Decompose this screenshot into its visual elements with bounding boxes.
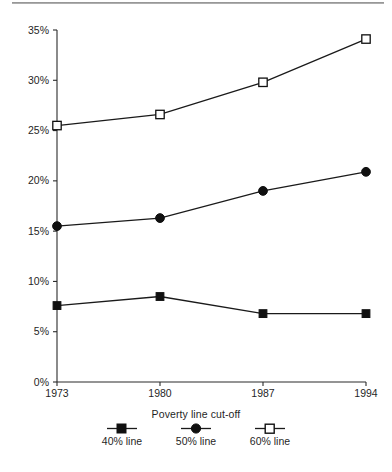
chart-plot-area: 0%5%10%15%20%25%30%35% 1973198019871994 — [0, 0, 392, 472]
y-tick-label: 35% — [28, 24, 49, 36]
data-point-marker — [53, 121, 61, 129]
legend-item-50-line[interactable]: 50% line — [167, 423, 225, 447]
y-tick-label: 20% — [28, 174, 49, 186]
data-point-marker — [259, 187, 268, 196]
data-point-marker — [156, 293, 164, 301]
legend-title: Poverty line cut-off — [0, 408, 392, 420]
legend-swatch-open-square — [253, 423, 287, 434]
y-tick-label: 0% — [34, 376, 49, 388]
legend-label-40-line: 40% line — [102, 435, 142, 447]
legend-label-50-line: 50% line — [176, 435, 216, 447]
legend-item-60-line[interactable]: 60% line — [241, 423, 299, 447]
chart-legend: Poverty line cut-off 40% line — [0, 408, 392, 447]
data-point-marker — [362, 167, 371, 176]
y-tick-label: 5% — [34, 325, 49, 337]
series-line-50-line — [57, 172, 366, 226]
y-tick-label: 10% — [28, 275, 49, 287]
x-axis-tick-labels: 1973198019871994 — [45, 387, 378, 399]
data-point-marker — [259, 310, 267, 318]
data-point-marker — [259, 78, 267, 86]
series-line-60-line — [57, 39, 366, 125]
data-point-marker — [362, 310, 370, 318]
data-point-marker — [53, 222, 62, 231]
y-tick-label: 25% — [28, 124, 49, 136]
x-tick-label: 1973 — [45, 387, 69, 399]
x-tick-label: 1987 — [251, 387, 275, 399]
legend-swatch-filled-square — [105, 423, 139, 434]
data-point-marker — [53, 302, 61, 310]
legend-label-60-line: 60% line — [250, 435, 290, 447]
x-tick-label: 1980 — [148, 387, 172, 399]
y-axis-tick-labels: 0%5%10%15%20%25%30%35% — [28, 24, 49, 388]
data-point-marker — [362, 35, 370, 43]
data-point-marker — [156, 214, 165, 223]
y-tick-label: 30% — [28, 74, 49, 86]
line-chart-figure: 0%5%10%15%20%25%30%35% 1973198019871994 … — [0, 0, 392, 472]
x-axis-ticks — [57, 382, 366, 386]
legend-item-40-line[interactable]: 40% line — [93, 423, 151, 447]
chart-series-group — [53, 35, 371, 318]
y-axis-ticks — [53, 30, 57, 382]
data-point-marker — [156, 110, 164, 118]
legend-swatch-filled-circle — [179, 423, 213, 434]
y-tick-label: 15% — [28, 225, 49, 237]
legend-items: 40% line 50% line 60% — [0, 423, 392, 447]
x-tick-label: 1994 — [354, 387, 378, 399]
series-line-40-line — [57, 297, 366, 314]
